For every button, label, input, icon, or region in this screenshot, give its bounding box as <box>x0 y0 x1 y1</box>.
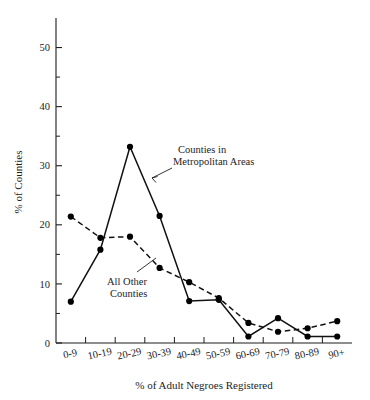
y-axis-ticks <box>56 48 62 343</box>
annotation-other: All Other Counties <box>107 276 147 299</box>
series-line-2 <box>71 217 337 332</box>
data-point <box>68 299 74 305</box>
y-tick-label: 30 <box>40 160 51 171</box>
data-point-markers <box>68 144 341 340</box>
x-axis-tick-labels: 0-910-1920-2930-3940-4950-5960-6970-7980… <box>62 346 346 362</box>
data-point <box>186 298 192 304</box>
y-axis-tick-labels: 01020304050 <box>40 42 51 348</box>
metro-annotation-line2: Metropolitan Areas <box>173 156 254 167</box>
other-annotation-line2: Counties <box>110 288 147 299</box>
data-point <box>127 234 133 240</box>
x-tick-label: 80-89 <box>294 346 320 362</box>
other-annotation-line1: All Other <box>107 276 147 287</box>
metro-leader-arrowhead <box>152 177 158 183</box>
series-layer <box>71 147 337 337</box>
y-tick-label: 0 <box>45 338 50 349</box>
x-tick-label: 70-79 <box>264 346 290 362</box>
x-tick-label: 0-9 <box>62 347 78 361</box>
data-point <box>245 333 251 339</box>
data-point <box>157 213 163 219</box>
axes <box>56 18 352 343</box>
data-point <box>127 144 133 150</box>
y-tick-label: 40 <box>40 101 51 112</box>
data-point <box>305 333 311 339</box>
x-tick-label: 40-49 <box>175 346 201 362</box>
metro-annotation-line1: Counties in <box>178 144 227 155</box>
data-point <box>305 325 311 331</box>
x-tick-label: 20-29 <box>116 346 142 362</box>
x-tick-label: 30-39 <box>146 346 172 362</box>
x-tick-label: 10-19 <box>87 346 113 362</box>
other-leader-line <box>137 258 156 272</box>
data-point <box>334 333 340 339</box>
line-chart: 01020304050 0-910-1920-2930-3940-4950-59… <box>0 0 370 400</box>
x-axis-ticks <box>86 337 323 343</box>
data-point <box>97 235 103 241</box>
x-tick-label: 90+ <box>327 346 345 360</box>
annotation-metro: Counties in Metropolitan Areas <box>173 144 254 167</box>
x-tick-label: 50-59 <box>205 346 231 362</box>
x-tick-label: 60-69 <box>235 346 261 362</box>
data-point <box>68 213 74 219</box>
data-point <box>157 265 163 271</box>
data-point <box>334 318 340 324</box>
y-tick-label: 50 <box>40 42 51 53</box>
metro-leader-line <box>152 168 172 178</box>
x-axis-title: % of Adult Negroes Registered <box>135 379 273 391</box>
data-point <box>216 295 222 301</box>
chart-container: 01020304050 0-910-1920-2930-3940-4950-59… <box>0 0 370 400</box>
y-tick-label: 10 <box>40 279 51 290</box>
annotation-leaders <box>137 168 172 272</box>
data-point <box>97 247 103 253</box>
series-line-1 <box>71 147 337 337</box>
y-tick-label: 20 <box>40 219 51 230</box>
data-point <box>186 279 192 285</box>
data-point <box>275 329 281 335</box>
y-axis-title: % of Counties <box>12 151 24 214</box>
data-point <box>275 315 281 321</box>
data-point <box>245 320 251 326</box>
